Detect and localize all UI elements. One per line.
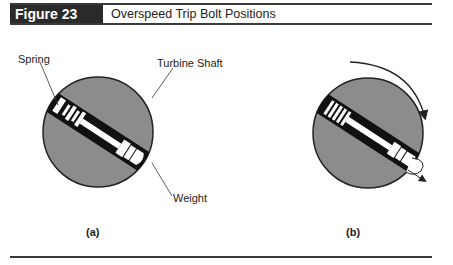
panel-a-shaft bbox=[35, 77, 163, 187]
trip-bolt-diagram bbox=[0, 0, 453, 265]
caption-a: (a) bbox=[86, 226, 99, 238]
caption-b: (b) bbox=[346, 226, 360, 238]
bottom-rule bbox=[10, 256, 432, 258]
spring-leader bbox=[40, 62, 58, 105]
weight-leader bbox=[152, 163, 172, 196]
panel-b-shaft bbox=[305, 78, 433, 188]
label-turbine-shaft: Turbine Shaft bbox=[157, 57, 223, 69]
label-spring: Spring bbox=[18, 53, 50, 65]
shaft-leader bbox=[152, 68, 173, 98]
label-weight: Weight bbox=[173, 192, 207, 204]
